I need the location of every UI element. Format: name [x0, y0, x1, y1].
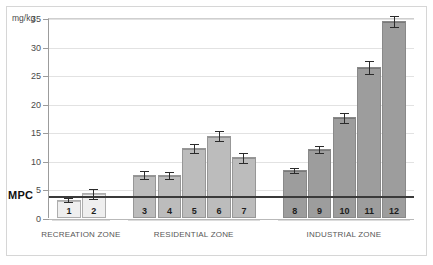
error-bar-upper-cap: [190, 144, 199, 145]
error-bar-lower-cap: [340, 123, 349, 124]
error-bar: [207, 131, 231, 142]
error-bar-upper-cap: [290, 168, 299, 169]
error-bar: [357, 61, 381, 75]
error-bar: [133, 171, 157, 180]
bar-chart-figure: mg/kg 05101520253035123456789101112 MPCR…: [0, 0, 433, 265]
y-axis-tick: [43, 105, 49, 106]
bar-number-label: 3: [133, 206, 157, 216]
error-bar-upper-cap: [365, 61, 374, 62]
error-bar-upper-cap: [340, 113, 349, 114]
bar-number-label: 1: [57, 206, 81, 216]
y-axis-tick-label: 20: [31, 100, 41, 110]
error-bar: [158, 172, 182, 180]
error-bar-lower-cap: [365, 74, 374, 75]
bar-number-label: 8: [283, 206, 307, 216]
error-bar-lower-cap: [165, 179, 174, 180]
bar: [382, 21, 406, 218]
zone-baseline-rule: [278, 220, 410, 221]
error-bar-lower-cap: [390, 27, 399, 28]
error-bar: [232, 153, 256, 163]
zone-label: RECREATION ZONE: [21, 230, 141, 239]
bar-number-label: 6: [207, 206, 231, 216]
error-bar-upper-cap: [165, 172, 174, 173]
bar-number-label: 12: [382, 206, 406, 216]
y-axis-tick: [43, 133, 49, 134]
bar: [333, 117, 357, 218]
bar-number-label: 5: [182, 206, 206, 216]
y-axis-tick: [43, 190, 49, 191]
error-bar-lower-cap: [190, 153, 199, 154]
error-bar-upper-cap: [215, 131, 224, 132]
error-bar-upper-cap: [390, 16, 399, 17]
plot-area: 05101520253035123456789101112: [48, 18, 414, 218]
error-bar: [333, 113, 357, 123]
bar-number-label: 10: [333, 206, 357, 216]
error-bar-lower-cap: [140, 179, 149, 180]
zone-label: RESIDENTIAL ZONE: [134, 230, 254, 239]
bar-number-label: 7: [232, 206, 256, 216]
bar-number-label: 4: [158, 206, 182, 216]
y-axis-tick-label: 25: [31, 71, 41, 81]
y-axis-tick-label: 10: [31, 157, 41, 167]
zone-label: INDUSTRIAL ZONE: [284, 230, 404, 239]
bar-number-label: 11: [357, 206, 381, 216]
error-bar: [82, 189, 106, 199]
gridline: [49, 48, 414, 49]
y-axis-tick: [43, 48, 49, 49]
y-axis-tick-label: 30: [31, 43, 41, 53]
y-axis-tick: [43, 76, 49, 77]
error-bar-lower-cap: [315, 153, 324, 154]
error-bar: [283, 168, 307, 175]
y-axis-tick: [43, 19, 49, 20]
y-axis-tick-label: 35: [31, 14, 41, 24]
error-bar: [308, 146, 332, 154]
bar-number-label: 2: [82, 206, 106, 216]
zone-baseline-rule: [128, 220, 260, 221]
error-bar-lower-cap: [64, 202, 73, 203]
error-bar-upper-cap: [315, 146, 324, 147]
error-bar-lower-cap: [290, 173, 299, 174]
error-bar: [182, 144, 206, 154]
error-bar: [382, 16, 406, 29]
zone-baseline-rule: [52, 220, 110, 221]
mpc-threshold-label: MPC: [8, 189, 33, 201]
error-bar-upper-cap: [140, 171, 149, 172]
error-bar-upper-cap: [89, 189, 98, 190]
y-axis-tick-label: 0: [36, 214, 41, 224]
error-bar-lower-cap: [215, 141, 224, 142]
error-bar-upper-cap: [239, 153, 248, 154]
y-axis-tick-label: 15: [31, 128, 41, 138]
gridline: [49, 19, 414, 20]
error-bar: [57, 198, 81, 203]
error-bar-stem: [369, 61, 370, 75]
bar-number-label: 9: [308, 206, 332, 216]
y-axis-tick: [43, 162, 49, 163]
error-bar-lower-cap: [89, 199, 98, 200]
y-axis-tick-label: 5: [36, 185, 41, 195]
error-bar-lower-cap: [239, 163, 248, 164]
error-bar-upper-cap: [64, 198, 73, 199]
